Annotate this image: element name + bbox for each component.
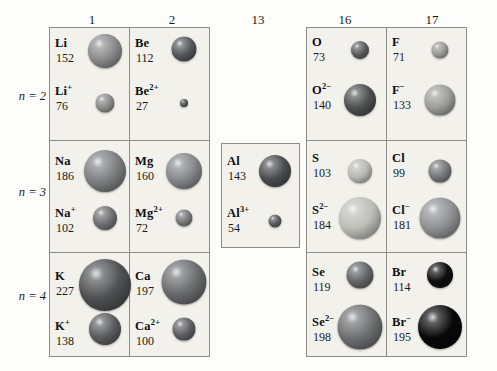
species-radius-al: 143 [227, 169, 246, 184]
species-radius-o-m: 140 [312, 98, 331, 113]
species-symbol-al-p: Al3+ [227, 206, 249, 221]
species-cell-mg-p: Mg2+72 [129, 195, 209, 247]
species-label-s-m: S2−184 [312, 203, 331, 233]
species-symbol-se: Se [312, 265, 331, 280]
species-radius-li-p: 76 [55, 99, 72, 114]
species-cell-ca-p: Ca2+100 [129, 311, 209, 356]
sphere-o [351, 41, 369, 59]
species-label-na: Na186 [55, 154, 74, 184]
species-charge-f-m: − [400, 80, 405, 90]
species-cell-al-p: Al3+54 [221, 195, 299, 247]
species-charge-be-p: 2+ [149, 82, 159, 92]
species-radius-be-p: 27 [135, 99, 159, 114]
sphere-k-p [89, 313, 121, 345]
species-radius-s: 103 [312, 166, 331, 181]
sphere-al [259, 155, 291, 187]
species-cell-se: Se119 [306, 256, 386, 304]
species-radius-mg-p: 72 [135, 221, 163, 236]
divider-left-n2-n3 [49, 140, 210, 141]
column-header-group-17: 17 [412, 12, 452, 28]
sphere-k [79, 259, 131, 311]
species-symbol-ca: Ca [135, 269, 154, 284]
species-charge-al-p: 3+ [240, 204, 250, 214]
species-radius-na-p: 102 [55, 221, 76, 236]
species-charge-br-m: − [406, 313, 411, 323]
species-cell-s: S103 [306, 143, 386, 189]
species-radius-cl: 99 [392, 166, 405, 181]
species-symbol-be-p: Be2+ [135, 84, 159, 99]
species-label-be: Be112 [135, 36, 154, 66]
species-symbol-f: F [392, 35, 405, 50]
sphere-se [347, 262, 374, 289]
sphere-cl [429, 160, 452, 183]
sphere-al-p [269, 215, 282, 228]
divider-right-n2-n3 [306, 140, 467, 141]
species-radius-f: 71 [392, 50, 405, 65]
species-radius-se-m: 198 [312, 330, 334, 345]
species-radius-na: 186 [55, 169, 74, 184]
divider-left-n3-n4 [49, 252, 210, 253]
sphere-br [427, 262, 453, 288]
species-radius-k: 227 [55, 284, 74, 299]
species-symbol-al: Al [227, 154, 246, 169]
species-label-br: Br114 [392, 265, 411, 295]
species-symbol-s-m: S2− [312, 203, 331, 218]
sphere-ca-p [173, 318, 196, 341]
divider-right-n3-n4 [306, 252, 467, 253]
sphere-br-m [418, 305, 462, 349]
species-symbol-ca-p: Ca2+ [135, 319, 160, 334]
species-symbol-li-p: Li+ [55, 84, 72, 99]
sphere-mg [166, 153, 202, 189]
column-header-group-16: 16 [325, 12, 365, 28]
species-symbol-k: K [55, 269, 74, 284]
species-label-o: O73 [312, 35, 325, 65]
species-radius-s-m: 184 [312, 218, 331, 233]
row-label-n3: n = 3 [0, 185, 46, 200]
species-symbol-li: Li [55, 36, 74, 51]
sphere-be [172, 37, 197, 62]
species-label-o-m: O2−140 [312, 83, 331, 113]
species-radius-al-p: 54 [227, 221, 249, 236]
species-charge-ca-p: 2+ [151, 316, 161, 326]
species-radius-f-m: 133 [392, 98, 411, 113]
column-header-group-13: 13 [238, 12, 278, 28]
species-cell-cl: Cl99 [386, 143, 466, 189]
sphere-li [88, 34, 122, 68]
species-label-al: Al143 [227, 154, 246, 184]
species-label-be-p: Be2+27 [135, 84, 159, 114]
species-label-na-p: Na+102 [55, 206, 76, 236]
species-radius-be: 112 [135, 51, 154, 66]
species-radius-mg: 160 [135, 169, 154, 184]
species-charge-mg-p: 2+ [153, 204, 163, 214]
ionic-radii-figure: 1 2 13 16 17 n = 2 n = 3 n = 4 Li152Li+7… [0, 0, 497, 371]
sphere-be-p [180, 99, 188, 107]
species-label-mg-p: Mg2+72 [135, 206, 163, 236]
species-radius-o: 73 [312, 50, 325, 65]
species-label-cl: Cl99 [392, 151, 405, 181]
species-charge-s-m: 2− [319, 201, 329, 211]
species-symbol-na-p: Na+ [55, 206, 76, 221]
species-radius-cl-m: 181 [392, 218, 411, 233]
species-label-f-m: F−133 [392, 83, 411, 113]
sphere-cl-m [420, 198, 461, 239]
species-label-cl-m: Cl−181 [392, 203, 411, 233]
sphere-li-p [96, 94, 115, 113]
species-radius-k-p: 138 [55, 334, 74, 349]
species-label-k-p: K+138 [55, 319, 74, 349]
sphere-o-m [344, 84, 376, 116]
species-symbol-na: Na [55, 154, 74, 169]
species-label-li-p: Li+76 [55, 84, 72, 114]
species-label-se-m: Se2−198 [312, 315, 334, 345]
sphere-se-m [338, 305, 383, 350]
species-cell-be: Be112 [129, 27, 209, 75]
species-label-se: Se119 [312, 265, 331, 295]
species-symbol-br-m: Br− [392, 315, 411, 330]
row-label-n2: n = 2 [0, 89, 46, 104]
species-symbol-s: S [312, 151, 331, 166]
species-cell-li-p: Li+76 [49, 75, 129, 123]
species-symbol-cl-m: Cl− [392, 203, 411, 218]
species-cell-o: O73 [306, 27, 386, 72]
sphere-s [348, 159, 372, 183]
species-charge-cl-m: − [405, 201, 410, 211]
sphere-mg-p [176, 210, 193, 227]
